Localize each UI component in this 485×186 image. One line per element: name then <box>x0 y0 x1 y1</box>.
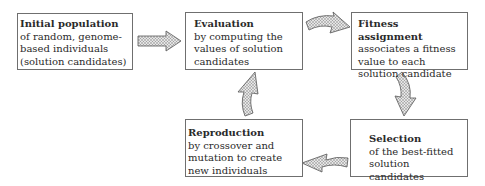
node-title: Evaluation <box>194 18 298 31</box>
node-description: by crossover and mutation to create new … <box>188 140 298 178</box>
arrow-evaluation-to-fitness-icon <box>306 12 350 33</box>
node-title: Initial population <box>20 18 128 31</box>
node-title: Fitness assignment <box>358 18 463 43</box>
node-description: of the best-fitted solution candidates <box>369 146 463 184</box>
node-description: associates a fitness value to each solut… <box>358 43 463 81</box>
node-evaluation: Evaluation by computing the values of so… <box>185 12 303 70</box>
node-fitness-assignment: Fitness assignment associates a fitness … <box>351 12 468 70</box>
node-initial-population: Initial population of random, genome-bas… <box>17 13 133 70</box>
node-reproduction: Reproduction by crossover and mutation t… <box>185 119 303 177</box>
node-title: Selection <box>369 133 463 146</box>
arrow-initial-to-evaluation-icon <box>138 31 181 51</box>
arrow-reproduction-to-evaluation-icon <box>238 72 258 116</box>
node-title: Reproduction <box>188 127 298 140</box>
arrow-selection-to-reproduction-icon <box>302 154 348 172</box>
node-selection: Selection of the best-fitted solution ca… <box>350 119 468 177</box>
node-description: by computing the values of solution cand… <box>194 31 298 69</box>
node-description: of random, genome-based individuals (sol… <box>20 31 128 69</box>
